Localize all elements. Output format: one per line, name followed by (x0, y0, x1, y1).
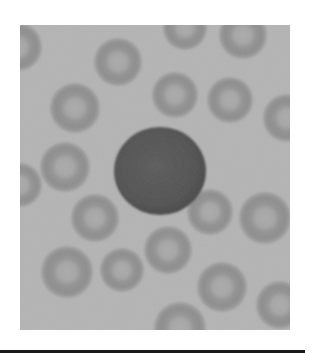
micrograph-frame (20, 25, 290, 330)
film-grain (20, 25, 290, 330)
blood-smear-image (20, 25, 290, 330)
